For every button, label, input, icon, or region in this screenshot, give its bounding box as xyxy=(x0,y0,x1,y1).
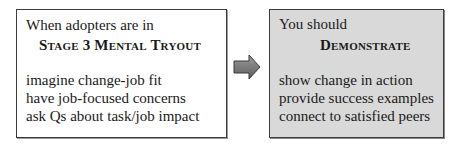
adopter-stage-box: When adopters are in Stage 3 Mental Tryo… xyxy=(16,9,227,138)
action-intro-text: You should xyxy=(279,16,347,32)
recommended-action-box: You should Demonstrate show change in ac… xyxy=(269,9,444,138)
stage-intro-text: When adopters are in xyxy=(26,17,154,33)
action-item: provide success examples xyxy=(279,90,434,106)
right-arrow-icon xyxy=(233,54,261,80)
stage-title: Stage 3 Mental Tryout xyxy=(39,37,201,53)
stage-item: ask Qs about task/job impact xyxy=(26,108,199,124)
action-item: show change in action xyxy=(279,72,413,88)
stage-item: imagine change-job fit xyxy=(26,72,162,88)
stage-item: have job-focused concerns xyxy=(26,90,186,106)
action-title: Demonstrate xyxy=(320,37,410,53)
action-item: connect to satisfied peers xyxy=(279,108,430,124)
